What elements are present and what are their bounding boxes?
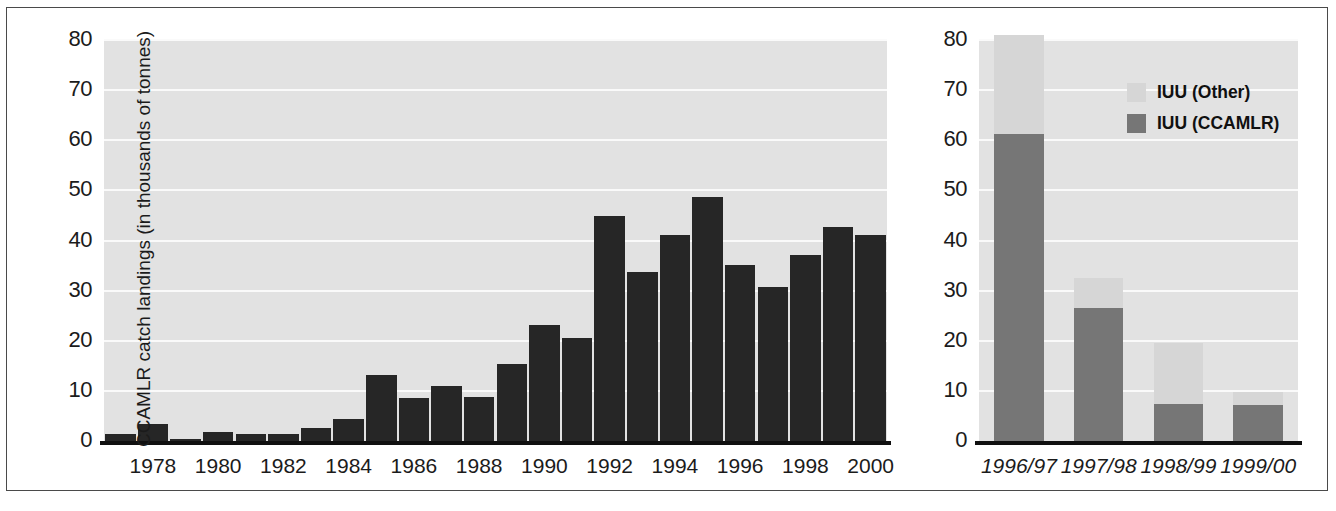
segment-iuu-other [994,35,1043,134]
segment-iuu-other [1154,343,1203,404]
bar [464,397,494,441]
figure-root: 0102030405060708019781980198219841986198… [0,0,1336,511]
segment-iuu-ccamlr [994,134,1043,441]
bar [203,432,233,441]
bar [692,197,722,441]
y-tick-label: 20 [911,329,967,351]
chart-legend: IUU (Other) IUU (CCAMLR) [1127,81,1290,143]
bar [333,419,363,441]
bar [236,434,266,441]
segment-iuu-ccamlr [1233,405,1282,441]
y-tick-label: 50 [911,178,967,200]
segment-iuu-other [1233,392,1282,405]
left-chart-panel: 0102030405060708019781980198219841986198… [104,40,887,441]
x-axis-line [975,441,1302,445]
legend-item-iuu-other: IUU (Other) [1127,81,1290,103]
gridline [104,39,887,41]
x-axis-line [100,441,891,445]
y-tick-label: 60 [36,128,92,150]
stacked-bar [1074,278,1123,441]
bar [431,386,461,441]
y-tick-label: 50 [36,178,92,200]
iuu-other-swatch [1127,83,1146,102]
bar [758,287,788,441]
y-tick-label: 30 [36,279,92,301]
y-tick-label: 70 [911,78,967,100]
bar [497,364,527,441]
y-tick-label: 40 [36,229,92,251]
bar [725,265,755,441]
x-tick-label: 2000 [826,455,916,476]
y-tick-label: 80 [36,28,92,50]
y-tick-label: 80 [911,28,967,50]
y-tick-label: 20 [36,329,92,351]
bar [529,325,559,441]
y-tick-label: 0 [36,429,92,451]
bar [170,439,200,442]
gridline [104,139,887,141]
legend-item-iuu-ccamlr: IUU (CCAMLR) [1127,112,1290,134]
segment-iuu-ccamlr [1154,404,1203,441]
y-tick-label: 0 [911,429,967,451]
bar [855,235,885,442]
bar [660,235,690,442]
bar [594,216,624,441]
bar [562,338,592,441]
bar [627,272,657,441]
bar [105,434,135,441]
gridline [104,89,887,91]
stacked-bar [1233,392,1282,441]
stacked-bar [1154,343,1203,441]
bar [399,398,429,441]
bar [823,227,853,441]
x-tick-label: 1999/00 [1203,455,1313,476]
iuu-ccamlr-swatch [1127,114,1146,133]
bar [301,428,331,441]
y-tick-label: 30 [911,279,967,301]
legend-label-iuu-other: IUU (Other) [1157,81,1250,103]
y-tick-label: 60 [911,128,967,150]
segment-iuu-other [1074,278,1123,308]
figure-frame: 0102030405060708019781980198219841986198… [6,7,1328,491]
stacked-bar [994,35,1043,441]
bar [790,255,820,441]
segment-iuu-ccamlr [1074,308,1123,441]
figure-caption [70,503,1270,511]
gridline [104,240,887,242]
y-tick-label: 40 [911,229,967,251]
y-tick-label: 70 [36,78,92,100]
gridline [104,189,887,191]
y-axis-title: CCAMLR catch landings (in thousands of t… [133,47,155,447]
legend-label-iuu-ccamlr: IUU (CCAMLR) [1157,112,1279,134]
bar [366,375,396,441]
y-tick-label: 10 [36,379,92,401]
y-tick-label: 10 [911,379,967,401]
bar [268,434,298,441]
